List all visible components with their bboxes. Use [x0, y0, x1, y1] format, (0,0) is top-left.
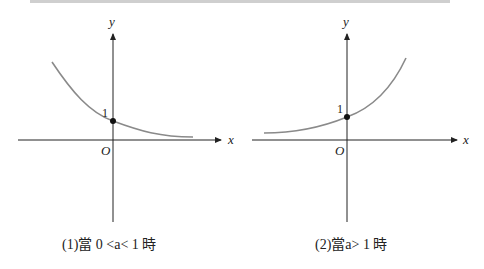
caption-panel-1: (1)當 0 <a< 1 時: [62, 233, 156, 253]
intercept-label: 1: [337, 102, 343, 116]
caption-panel-2: (2)當a> 1 時: [315, 233, 387, 253]
y-axis-label: y: [341, 14, 349, 29]
origin-label: O: [101, 143, 111, 158]
intercept-point: [344, 114, 350, 120]
y-axis-label: y: [107, 14, 115, 29]
x-axis-label: x: [462, 132, 469, 147]
decreasing-curve: [52, 62, 193, 137]
increasing-curve: [264, 58, 406, 133]
panel-2-graph: 1 O x y: [252, 14, 469, 222]
intercept-point: [110, 118, 116, 124]
x-axis-label: x: [227, 132, 234, 147]
panel-1-graph: 1 O x y: [18, 14, 234, 222]
exponential-graphs: 1 O x y 1 O x y: [0, 0, 484, 269]
origin-label: O: [335, 143, 345, 158]
intercept-label: 1: [102, 106, 108, 120]
